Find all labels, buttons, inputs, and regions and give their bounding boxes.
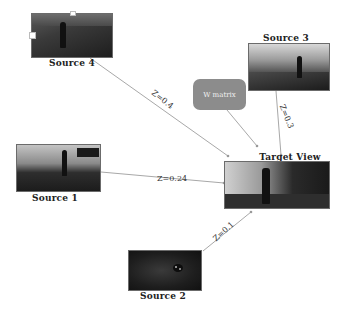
source2-image	[128, 250, 202, 291]
source1-image	[16, 144, 101, 192]
target-view-image	[224, 161, 330, 209]
w-matrix-node: W matrix	[193, 79, 246, 110]
source2-label: Source 2	[140, 291, 186, 301]
w-matrix-label: W matrix	[203, 91, 236, 99]
source3-label: Source 3	[263, 33, 309, 43]
resize-handle[interactable]	[29, 32, 36, 39]
edge-label-z024: Z=0.24	[157, 174, 187, 183]
arrow-dot-icon	[227, 155, 230, 158]
person-figure	[297, 56, 302, 78]
arrow-dot-icon	[250, 211, 253, 214]
resize-handle[interactable]	[70, 11, 76, 16]
source1-label: Source 1	[32, 193, 78, 203]
arrow-dot-icon	[256, 145, 259, 148]
person-figure	[60, 22, 66, 48]
person-figure	[262, 168, 270, 204]
source4-image	[31, 13, 113, 58]
person-figure	[62, 150, 67, 176]
source3-image	[248, 43, 330, 91]
edge-source3-target	[276, 91, 281, 155]
edge-wmatrix-target	[227, 110, 257, 146]
source4-label: Source 4	[49, 58, 95, 68]
